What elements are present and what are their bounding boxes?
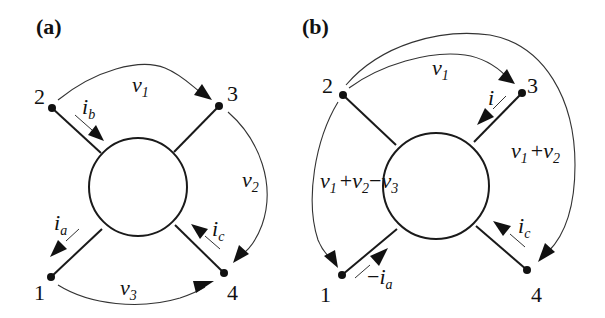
v1-arc xyxy=(58,65,200,100)
ia-arrowhead xyxy=(50,240,67,257)
node-1-label: 1 xyxy=(320,282,331,307)
v1-plus-v2-label: v1+v2 xyxy=(511,138,560,166)
node-2-dot xyxy=(48,104,56,112)
node-3-label: 3 xyxy=(527,73,538,98)
ia-label: ia xyxy=(54,210,67,238)
v2-arrowhead xyxy=(233,245,249,263)
ic-arrowhead xyxy=(493,221,511,236)
v3-arrowhead xyxy=(193,281,214,293)
v1-label: v1 xyxy=(132,72,149,100)
v3-label: v3 xyxy=(120,275,137,303)
panel-a: (a) 2 3 1 4 v1 v2 v3 xyxy=(34,14,267,305)
node-1-dot xyxy=(338,271,346,279)
two-port-network-diagram: (a) 2 3 1 4 v1 v2 v3 xyxy=(0,0,605,318)
ia-shaft xyxy=(66,229,79,241)
wire-node3 xyxy=(174,106,219,152)
wire-node1 xyxy=(51,229,102,277)
node-1-dot xyxy=(47,273,55,281)
panel-a-label: (a) xyxy=(36,14,62,39)
node-4-dot xyxy=(523,266,531,274)
ib-arrowhead xyxy=(88,125,104,141)
wire-node2 xyxy=(343,95,396,145)
minus-ia-label: −ia xyxy=(367,264,393,292)
v1-plus-v2-minus-v3-label: v1+v2−v3 xyxy=(320,168,398,196)
ib-label: ib xyxy=(82,94,95,122)
i-shaft xyxy=(493,96,506,109)
v1-arc xyxy=(349,54,506,88)
v1-plus-v2-minus-v3-arrowhead xyxy=(324,250,338,268)
i-label: i xyxy=(488,85,494,110)
v1-label: v1 xyxy=(432,55,449,83)
node-4-label: 4 xyxy=(531,282,542,307)
panel-b: (b) 2 3 1 4 v1 v1+v2 v1+v2−v3 xyxy=(302,14,575,307)
v1-plus-v2-arrowhead xyxy=(538,243,555,262)
node-1-label: 1 xyxy=(34,280,45,305)
network-circle xyxy=(383,133,489,239)
node-4-dot xyxy=(220,269,228,277)
node-3-label: 3 xyxy=(227,81,238,106)
v2-label: v2 xyxy=(242,167,259,195)
panel-b-label: (b) xyxy=(302,14,329,39)
node-2-label: 2 xyxy=(322,73,333,98)
network-circle xyxy=(89,138,187,236)
v1-arrowhead xyxy=(194,84,212,100)
i-arrowhead xyxy=(477,108,494,125)
ic-label: ic xyxy=(518,213,531,241)
ic-label: ic xyxy=(212,216,225,244)
node-2-dot xyxy=(339,91,347,99)
node-4-label: 4 xyxy=(227,280,238,305)
node-3-dot xyxy=(215,102,223,110)
node-2-label: 2 xyxy=(34,84,45,109)
node-3-dot xyxy=(518,89,526,97)
